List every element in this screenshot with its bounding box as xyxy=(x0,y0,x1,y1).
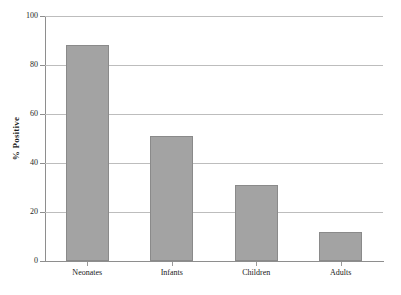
bar-chart: % Positive 020406080100 NeonatesInfantsC… xyxy=(0,0,401,295)
y-tick-label: 20 xyxy=(8,208,38,216)
y-tick-label: 0 xyxy=(8,257,38,265)
plot-area xyxy=(45,16,383,261)
y-tick-label: 100 xyxy=(8,12,38,20)
y-tick-label: 40 xyxy=(8,159,38,167)
bar xyxy=(235,185,278,261)
y-tick-label-wrap: 60 xyxy=(0,110,38,118)
x-tick-mark xyxy=(256,262,257,266)
y-tick-label-wrap: 40 xyxy=(0,159,38,167)
bar xyxy=(319,232,362,261)
x-tick-mark xyxy=(172,262,173,266)
y-tick-label: 80 xyxy=(8,61,38,69)
y-tick-label-wrap: 20 xyxy=(0,208,38,216)
bar xyxy=(150,136,193,261)
gridline xyxy=(45,16,383,17)
y-tick-label-wrap: 0 xyxy=(0,257,38,265)
x-tick-mark xyxy=(87,262,88,266)
bar xyxy=(66,45,109,261)
y-axis-title: % Positive xyxy=(9,16,23,261)
x-axis-category-label: Adults xyxy=(291,268,391,278)
y-tick-label: 60 xyxy=(8,110,38,118)
y-tick-label-wrap: 80 xyxy=(0,61,38,69)
y-tick-label-wrap: 100 xyxy=(0,12,38,20)
gridline xyxy=(45,261,383,262)
x-tick-mark xyxy=(341,262,342,266)
